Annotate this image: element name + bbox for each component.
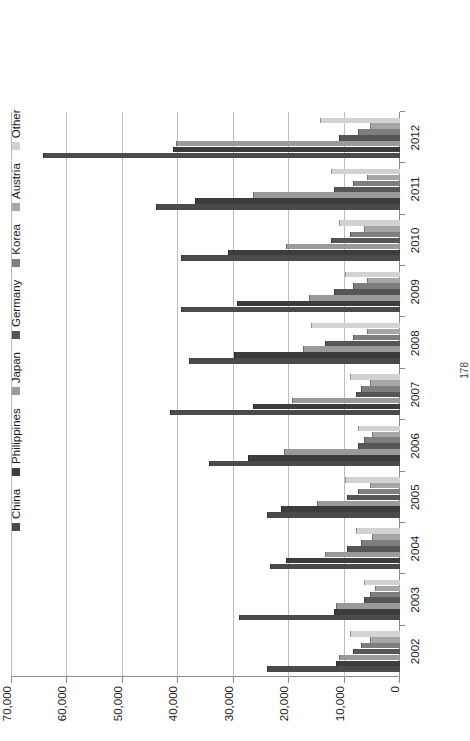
category-axis-tick (400, 522, 405, 523)
value-axis-label: 60,000 (56, 686, 68, 721)
bar-group (12, 579, 400, 620)
bar (234, 352, 400, 357)
bar (367, 278, 400, 283)
bar (353, 335, 400, 340)
bar (361, 386, 400, 391)
bar-group (12, 425, 400, 466)
value-axis-label: 10,000 (334, 686, 346, 721)
bar (286, 558, 400, 563)
bar-group (12, 169, 400, 210)
category-axis-label: 2004 (409, 536, 421, 562)
bar (270, 564, 400, 569)
category-axis-label: 2010 (409, 228, 421, 254)
bar (195, 198, 400, 203)
bar (356, 392, 400, 397)
bar (331, 238, 400, 243)
category-axis-tick (400, 111, 405, 112)
bar (370, 637, 400, 642)
bar (334, 187, 401, 192)
category-axis-tick (400, 265, 405, 266)
bar (339, 655, 400, 660)
category-axis-label: 2012 (409, 125, 421, 151)
value-axis-tick (177, 677, 178, 683)
bar-group (12, 220, 400, 261)
bar-group (12, 631, 400, 672)
bar (358, 443, 400, 448)
bar (334, 609, 401, 614)
bar (372, 432, 400, 437)
bar (253, 404, 400, 409)
bar (336, 661, 400, 666)
value-axis-label: 20,000 (278, 686, 290, 721)
bar (345, 477, 400, 482)
value-axis-label: 70,000 (1, 686, 13, 721)
bar (43, 153, 401, 158)
bar-group (12, 323, 400, 364)
bar (364, 226, 400, 231)
bar (358, 129, 400, 134)
bar (339, 135, 400, 140)
value-axis-tick (11, 677, 12, 683)
bar (370, 592, 400, 597)
page-number: 178 (459, 362, 470, 379)
bar (284, 449, 400, 454)
bar (173, 147, 400, 152)
category-axis-label: 2002 (409, 639, 421, 665)
bar (350, 232, 400, 237)
bar (375, 586, 400, 591)
bar (350, 374, 400, 379)
bar (228, 250, 400, 255)
plot-area: 010,00020,00030,00040,00050,00060,00070,… (12, 112, 400, 677)
bar (309, 295, 400, 300)
bar (311, 323, 400, 328)
bar (339, 220, 400, 225)
category-axis-label: 2003 (409, 587, 421, 613)
bar (181, 307, 400, 312)
bar (325, 552, 400, 557)
bar (367, 175, 400, 180)
category-axis-tick (400, 471, 405, 472)
bar-group (12, 374, 400, 415)
category-axis-tick (400, 573, 405, 574)
bar-group (12, 477, 400, 518)
bar (292, 398, 400, 403)
bar (317, 501, 400, 506)
bar (156, 204, 400, 209)
bar (267, 512, 400, 517)
bar (267, 666, 400, 671)
bar (361, 643, 400, 648)
value-axis-tick (344, 677, 345, 683)
bar (239, 615, 400, 620)
bar (170, 410, 400, 415)
bar (286, 244, 400, 249)
bar (345, 272, 400, 277)
bar (364, 580, 400, 585)
bar (367, 329, 400, 334)
category-axis-label: 2005 (409, 484, 421, 510)
bar (370, 123, 400, 128)
bar (253, 192, 400, 197)
value-axis-label: 50,000 (112, 686, 124, 721)
bar (176, 141, 400, 146)
bar (356, 528, 400, 533)
value-axis-tick (288, 677, 289, 683)
bar-group (12, 117, 400, 158)
bar (320, 118, 400, 123)
category-axis-label: 2009 (409, 279, 421, 305)
bar (370, 483, 400, 488)
bar (336, 603, 400, 608)
bar (372, 534, 400, 539)
value-axis-tick (122, 677, 123, 683)
category-axis-tick (400, 162, 405, 163)
bar (209, 461, 400, 466)
bar (347, 546, 400, 551)
bar (353, 181, 400, 186)
category-axis-label: 2011 (409, 177, 421, 202)
bar (237, 301, 401, 306)
bar-group (12, 528, 400, 569)
category-axis-tick (400, 368, 405, 369)
category-axis-label: 2008 (409, 330, 421, 356)
bar (353, 283, 400, 288)
